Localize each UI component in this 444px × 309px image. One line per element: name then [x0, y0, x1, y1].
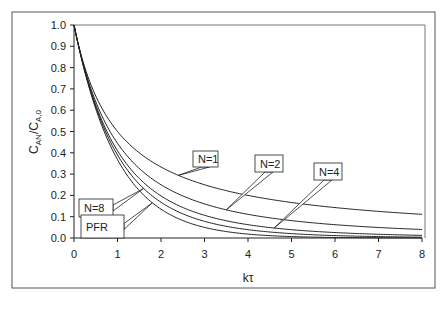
x-tick-label: 1 — [114, 248, 120, 260]
y-tick-label: 0.2 — [51, 189, 66, 201]
x-tick-label: 3 — [201, 248, 207, 260]
y-tick-label: 0.5 — [51, 126, 66, 138]
callout-label: PFR — [86, 221, 108, 233]
outer-frame — [12, 12, 435, 288]
y-tick-label: 0.6 — [51, 104, 66, 116]
y-tick-label: 0.1 — [51, 211, 66, 223]
x-tick-label: 8 — [419, 248, 425, 260]
x-tick-label: 5 — [288, 248, 294, 260]
x-tick-label: 0 — [71, 248, 77, 260]
x-tick-label: 6 — [332, 248, 338, 260]
y-tick-label: 1.0 — [51, 19, 66, 31]
y-tick-label: 0.9 — [51, 40, 66, 52]
y-tick-label: 0.4 — [51, 147, 66, 159]
y-tick-label: 0.8 — [51, 62, 66, 74]
x-axis-title: kτ — [243, 271, 254, 285]
x-tick-label: 2 — [158, 248, 164, 260]
chart: 0.00.10.20.30.40.50.60.70.80.91.00123456… — [0, 0, 444, 309]
callout-label: N=1 — [198, 153, 219, 165]
callout-label: N=4 — [319, 166, 340, 178]
x-tick-label: 7 — [375, 248, 381, 260]
y-tick-label: 0.3 — [51, 168, 66, 180]
x-tick-label: 4 — [245, 248, 251, 260]
y-tick-label: 0.7 — [51, 83, 66, 95]
y-tick-label: 0.0 — [51, 232, 66, 244]
callout-label: N=2 — [260, 158, 281, 170]
callout-label: N=8 — [84, 202, 105, 214]
